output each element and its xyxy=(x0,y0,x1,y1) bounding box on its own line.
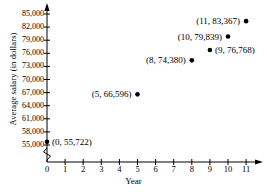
data-point-label: (11, 83,367) xyxy=(196,17,240,26)
data-point xyxy=(190,58,195,63)
x-tick-label: 6 xyxy=(149,165,163,174)
y-axis-title: Average salary (in dollars) xyxy=(8,4,18,154)
y-tick-label: 70,000 xyxy=(22,76,44,84)
y-axis-tick-labels: 55,00058,00061,00064,00067,00070,00073,0… xyxy=(0,0,44,192)
y-tick-label: 67,000 xyxy=(22,89,44,97)
y-tick-label: 64,000 xyxy=(22,102,44,110)
x-tick-label: 1 xyxy=(58,165,72,174)
x-tick-label: 7 xyxy=(167,165,181,174)
y-tick-label: 79,000 xyxy=(22,36,44,44)
x-tick-label: 5 xyxy=(131,165,145,174)
data-point xyxy=(226,34,231,39)
x-axis-title: Year xyxy=(0,176,267,186)
y-tick-label: 61,000 xyxy=(22,115,44,123)
data-point-label: (5, 66,596) xyxy=(92,90,132,99)
data-point xyxy=(45,140,50,145)
x-tick-label: 3 xyxy=(94,165,108,174)
data-point-label: (10, 79,839) xyxy=(178,32,222,41)
x-tick-label: 4 xyxy=(112,165,126,174)
data-point xyxy=(208,48,213,53)
y-tick-label: 58,000 xyxy=(22,128,44,136)
y-tick-label: 85,000 xyxy=(22,10,44,18)
y-tick-label: 73,000 xyxy=(22,62,44,70)
x-tick-label: 2 xyxy=(76,165,90,174)
data-point xyxy=(135,92,140,97)
x-tick-label: 8 xyxy=(185,165,199,174)
y-tick-label: 76,000 xyxy=(22,49,44,57)
x-tick-label: 0 xyxy=(40,165,54,174)
data-point-label: (9, 76,768) xyxy=(215,45,255,54)
data-point-label: (8, 74,380) xyxy=(146,56,186,65)
x-tick-label: 9 xyxy=(203,165,217,174)
x-tick-label: 10 xyxy=(221,165,235,174)
x-tick-label: 11 xyxy=(239,165,253,174)
scatter-plot-figure: 55,00058,00061,00064,00067,00070,00073,0… xyxy=(0,0,267,192)
y-tick-label: 82,000 xyxy=(22,23,44,31)
data-point-label: (0, 55,722) xyxy=(52,137,92,146)
data-point xyxy=(244,19,249,24)
y-tick-label: 55,000 xyxy=(22,141,44,149)
